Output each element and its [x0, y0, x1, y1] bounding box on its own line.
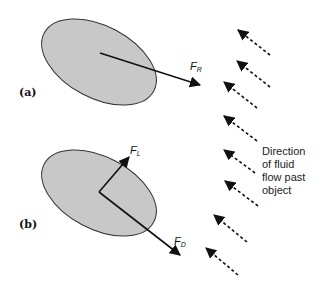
drag-force-label: FD — [174, 235, 186, 248]
flow-arrow — [225, 181, 258, 206]
flow-arrow — [237, 61, 270, 87]
resultant-force-label: FR — [190, 60, 202, 73]
flow-direction-caption: Direction of fluid flow past object — [262, 145, 322, 197]
flow-arrow — [214, 215, 247, 242]
flow-arrows — [206, 30, 270, 275]
lift-force-label: FL — [130, 144, 141, 157]
flow-arrow — [224, 82, 257, 108]
flow-arrow — [206, 248, 238, 275]
flow-arrow — [224, 150, 255, 173]
object-a — [27, 1, 170, 123]
flow-arrow — [238, 30, 270, 55]
flow-arrow — [224, 116, 257, 141]
panel-a-label: (a) — [19, 86, 37, 99]
panel-b-label: (b) — [19, 218, 37, 231]
